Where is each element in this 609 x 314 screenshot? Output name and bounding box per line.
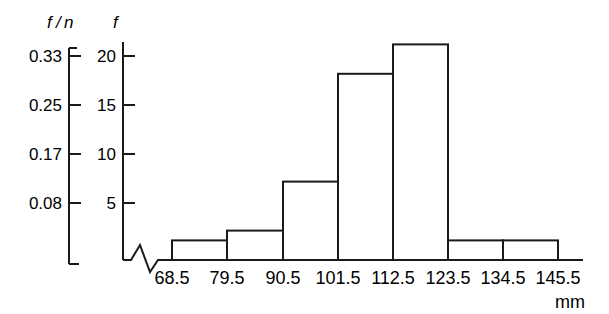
x-tick-label-112.5: 112.5 [371, 268, 415, 288]
x-tick-label-68.5: 68.5 [154, 268, 189, 288]
relfreq-axis-spine [69, 48, 79, 264]
histogram-bars [172, 44, 558, 260]
histogram-bar [393, 44, 448, 260]
histogram-bar [503, 240, 558, 260]
relfreq-axis-title-denominator: n [64, 13, 73, 32]
frequency-tick-label-20: 20 [97, 47, 116, 66]
relfreq-axis-title-numerator: f [47, 13, 54, 32]
frequency-tick-label-5: 5 [107, 194, 116, 213]
x-tick-label-101.5: 101.5 [315, 268, 360, 288]
x-tick-label-123.5: 123.5 [425, 268, 470, 288]
histogram-bar [172, 240, 227, 260]
frequency-tick-label-10: 10 [97, 145, 116, 164]
relative-frequency-axis [69, 48, 81, 264]
x-tick-label-134.5: 134.5 [480, 268, 525, 288]
frequency-tick-label-15: 15 [97, 96, 116, 115]
frequency-axis [123, 42, 135, 260]
relfreq-tick-label-0.25: 0.25 [29, 96, 62, 115]
x-tick-label-145.5: 145.5 [535, 268, 580, 288]
histogram-bar [448, 240, 503, 260]
relfreq-tick-label-0.08: 0.08 [29, 194, 62, 213]
x-axis-unit-label: mm [555, 292, 585, 312]
histogram-figure: f / n 0.33 0.25 0.17 0.08 f 20 15 10 5 [0, 0, 609, 314]
x-tick-label-79.5: 79.5 [209, 268, 244, 288]
frequency-axis-title: f [113, 13, 120, 32]
relfreq-tick-label-0.17: 0.17 [29, 145, 62, 164]
histogram-bar [338, 74, 393, 260]
histogram-bar [227, 231, 283, 260]
relative-frequency-axis-title: f / n [47, 13, 73, 32]
x-tick-label-90.5: 90.5 [265, 268, 300, 288]
histogram-canvas: f / n 0.33 0.25 0.17 0.08 f 20 15 10 5 [0, 0, 609, 314]
relfreq-axis-title-slash: / [55, 13, 63, 32]
relfreq-tick-label-0.33: 0.33 [29, 47, 62, 66]
histogram-bar [283, 182, 338, 260]
